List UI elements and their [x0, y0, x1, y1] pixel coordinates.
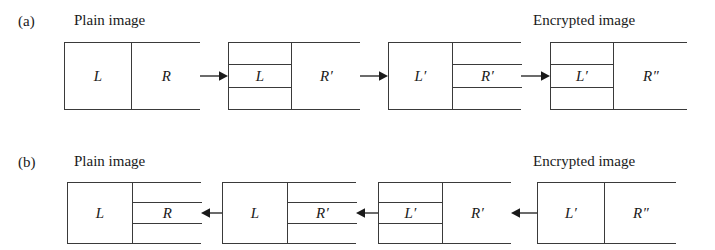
- row-b-decryption-round-two-block-left-half-label: L′: [404, 205, 416, 220]
- row-a-encryption-round-one-block-right-half-label: R′: [320, 68, 333, 83]
- band-top: [551, 43, 613, 64]
- row-b-decryption-encrypted-image-block-left-half-label: L′: [565, 205, 577, 220]
- row-b-decryption-encrypted-image-block-right-half-label: R″: [633, 205, 649, 220]
- band-top: [133, 183, 202, 202]
- row-a-encryption-encrypted-image-block-left-half-label: L′: [576, 68, 588, 83]
- band-middle: R′: [288, 202, 357, 224]
- row-b-decryption-round-one-block: LR′: [222, 182, 356, 244]
- row-a-encryption-encrypted-image-block-right-half-label: R″: [643, 68, 659, 83]
- row-a-encryption-tag: (a): [18, 14, 35, 29]
- band-top: [453, 43, 522, 64]
- row-b-decryption-encrypted-image-block: L′R″: [537, 182, 676, 244]
- row-a-encryption-plain-image-caption: Plain image: [74, 13, 145, 28]
- row-b-decryption-round-two-block: L′R′: [378, 182, 511, 244]
- row-b-decryption-encrypted-image-block-left-half: L′: [538, 183, 604, 243]
- row-b-decryption-arrow-3: [511, 207, 537, 219]
- row-b-decryption-encrypted-image-caption: Encrypted image: [533, 154, 635, 169]
- band-top: [288, 183, 357, 202]
- row-a-encryption-arrow-1: [200, 70, 228, 82]
- band-middle: L′: [379, 202, 442, 224]
- row-b-decryption-round-one-block-left-half-label: L: [251, 205, 260, 220]
- row-a-encryption-encrypted-image-block-right-half: R″: [613, 43, 688, 109]
- row-b-decryption-round-two-block-right-half-label: R′: [471, 205, 484, 220]
- row-b-decryption-tag: (b): [18, 155, 36, 170]
- row-a-encryption-round-two-block: L′R′: [388, 42, 521, 110]
- row-a-encryption-round-two-block-left-half-label: L′: [414, 68, 426, 83]
- row-a-encryption-round-two-block-right-half: R′: [452, 43, 522, 109]
- row-b-decryption-arrow-2: [356, 207, 378, 219]
- row-a-encryption-round-one-block-right-half: R′: [291, 43, 361, 109]
- band-bottom: [288, 224, 357, 243]
- row-a-encryption-arrow-3: [521, 70, 550, 82]
- band-bottom: [453, 88, 522, 109]
- figure-canvas: (a)Plain imageEncrypted imageLRLR′L′R′L′…: [0, 0, 715, 250]
- band-bottom: [133, 224, 202, 243]
- row-a-encryption-arrow-2: [360, 70, 388, 82]
- row-b-decryption-plain-image-block-right-half-label: R: [163, 205, 172, 220]
- band-middle: R: [133, 202, 202, 224]
- row-a-encryption-round-one-block-left-half: L: [229, 43, 291, 109]
- row-b-decryption-round-one-block-right-half-label: R′: [316, 205, 329, 220]
- band-top: [229, 43, 291, 64]
- band-top: [379, 183, 442, 202]
- row-a-encryption-round-two-block-right-half-label: R′: [481, 68, 494, 83]
- row-a-encryption-plain-image-block-left-half-label: L: [94, 68, 103, 83]
- row-b-decryption-plain-image-block-right-half: R: [132, 183, 202, 243]
- band-bottom: [551, 88, 613, 109]
- row-a-encryption-plain-image-block-left-half: L: [65, 43, 131, 109]
- row-a-encryption-encrypted-image-caption: Encrypted image: [533, 13, 635, 28]
- row-b-decryption-plain-image-block-left-half: L: [68, 183, 132, 243]
- row-b-decryption-plain-image-block: LR: [67, 182, 201, 244]
- row-a-encryption-round-two-block-left-half: L′: [389, 43, 452, 109]
- row-a-encryption-plain-image-block-right-half-label: R: [162, 68, 171, 83]
- band-middle: R′: [453, 64, 522, 88]
- row-a-encryption-round-one-block: LR′: [228, 42, 360, 110]
- band-middle: L′: [551, 64, 613, 88]
- row-b-decryption-plain-image-block-left-half-label: L: [96, 205, 105, 220]
- row-a-encryption-plain-image-block-right-half: R: [131, 43, 201, 109]
- row-b-decryption-arrow-1: [201, 207, 222, 219]
- row-b-decryption-encrypted-image-block-right-half: R″: [604, 183, 677, 243]
- band-bottom: [229, 88, 291, 109]
- row-b-decryption-round-two-block-right-half: R′: [442, 183, 512, 243]
- row-a-encryption-plain-image-block: LR: [64, 42, 200, 110]
- band-bottom: [379, 224, 442, 243]
- row-b-decryption-plain-image-caption: Plain image: [74, 154, 145, 169]
- row-a-encryption-encrypted-image-block-left-half: L′: [551, 43, 613, 109]
- row-b-decryption-round-two-block-left-half: L′: [379, 183, 442, 243]
- row-b-decryption-round-one-block-left-half: L: [223, 183, 287, 243]
- band-middle: L: [229, 64, 291, 88]
- row-a-encryption-encrypted-image-block: L′R″: [550, 42, 687, 110]
- row-a-encryption-round-one-block-left-half-label: L: [256, 68, 265, 83]
- row-b-decryption-round-one-block-right-half: R′: [287, 183, 357, 243]
